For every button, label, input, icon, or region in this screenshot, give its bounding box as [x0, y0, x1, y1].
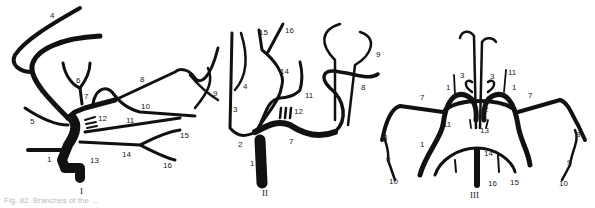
label-13: 13: [90, 156, 99, 165]
label-1-right: 1: [519, 128, 524, 137]
label-8: 8: [140, 75, 145, 84]
label-10-right: 10: [559, 179, 568, 188]
label-2: 2: [484, 105, 489, 114]
label-3: 3: [233, 105, 238, 114]
label-16: 16: [163, 161, 172, 170]
numeral-ii: II: [262, 188, 268, 198]
label-10: 10: [141, 102, 150, 111]
vessel-diagram: 4 3 6 7 8 9 10 11 12 5 1 13 14 15 16 I 1…: [0, 0, 595, 208]
label-8: 8: [361, 83, 366, 92]
label-3: 3: [40, 86, 45, 95]
label-1: 1: [250, 159, 255, 168]
label-14: 14: [280, 67, 289, 76]
label-12: 12: [294, 107, 303, 116]
label-3-right: 3: [490, 72, 495, 81]
label-7-left: 7: [420, 93, 425, 102]
label-16: 16: [488, 179, 497, 188]
numeral-i: I: [80, 186, 83, 196]
label-15: 15: [259, 28, 268, 37]
label-7-right: 7: [528, 91, 533, 100]
label-1-top-left: 1: [446, 83, 451, 92]
label-2: 2: [238, 140, 243, 149]
label-3-left: 3: [460, 71, 465, 80]
label-8-left: 8: [383, 133, 388, 142]
label-9: 9: [376, 50, 381, 59]
label-4: 4: [50, 11, 55, 20]
label-10-left: 10: [389, 177, 398, 186]
label-14: 14: [484, 149, 493, 158]
panel-3: 3 3 11 1 1 7 7 2 11 13 1 1 14 8 8 9 9 10…: [382, 32, 585, 200]
label-11-top: 11: [508, 68, 517, 77]
label-5: 5: [30, 117, 35, 126]
label-6: 6: [76, 76, 81, 85]
label-11: 11: [305, 91, 314, 100]
label-14: 14: [122, 150, 131, 159]
panel-2: 15 16 14 4 3 11 12 2 7 1 8 9 II: [230, 24, 381, 198]
label-7: 7: [84, 92, 89, 101]
label-1: 1: [47, 155, 52, 164]
label-11-left: 11: [443, 120, 452, 129]
label-15: 15: [510, 178, 519, 187]
figure-caption: Fig. 82. Branches of the ...: [4, 196, 98, 205]
label-9: 9: [213, 89, 218, 98]
label-9-left: 9: [386, 155, 391, 164]
label-8-right: 8: [576, 130, 581, 139]
numeral-iii: III: [470, 190, 479, 200]
label-9-right: 9: [567, 158, 572, 167]
label-7: 7: [289, 137, 294, 146]
label-12: 12: [98, 114, 107, 123]
label-13: 13: [480, 126, 489, 135]
label-1-top-right: 1: [512, 83, 517, 92]
panel-1: 4 3 6 7 8 9 10 11 12 5 1 13 14 15 16 I: [14, 8, 218, 196]
label-15: 15: [180, 131, 189, 140]
label-1-left: 1: [420, 140, 425, 149]
label-4: 4: [243, 82, 248, 91]
label-16: 16: [285, 26, 294, 35]
label-11: 11: [126, 116, 135, 125]
